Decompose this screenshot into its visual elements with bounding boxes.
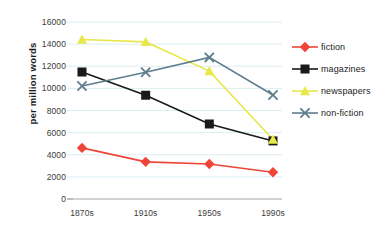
series-lines xyxy=(82,39,273,172)
legend-marker-diamond-icon xyxy=(292,40,318,54)
data-point-legend-fiction xyxy=(300,42,310,52)
series-line-fiction xyxy=(82,148,273,172)
x-tick-label-1870s: 1870s xyxy=(52,208,112,218)
y-tick-label: 12000 xyxy=(18,61,66,71)
legend-item-newspapers[interactable]: newspapers xyxy=(292,80,372,102)
legend-label-fiction: fiction xyxy=(321,42,345,52)
data-point-magazines-1950s xyxy=(205,119,214,128)
y-tick-label: 16000 xyxy=(18,17,66,27)
legend-marker-triangle-icon xyxy=(292,84,318,98)
y-tick-label: 14000 xyxy=(18,39,66,49)
data-point-magazines-1870s xyxy=(78,68,87,77)
legend-label-non-fiction: non-fiction xyxy=(321,108,364,118)
legend-label-magazines: magazines xyxy=(321,64,365,74)
y-tick-label: 0 xyxy=(18,194,66,204)
data-point-legend-magazines xyxy=(301,65,310,74)
legend-item-magazines[interactable]: magazines xyxy=(292,58,372,80)
legend-label-newspapers: newspapers xyxy=(321,86,371,96)
series-line-magazines xyxy=(82,72,273,141)
legend-marker-x-icon xyxy=(292,106,318,120)
y-axis-title: per million words xyxy=(27,24,38,144)
y-tick-label: 4000 xyxy=(18,150,66,160)
chart-legend: fictionmagazinesnewspapersnon-fiction xyxy=(292,36,372,124)
x-tick-label-1910s: 1910s xyxy=(116,208,176,218)
data-point-fiction-1990s xyxy=(268,167,278,177)
data-point-fiction-1870s xyxy=(77,143,87,153)
legend-item-fiction[interactable]: fiction xyxy=(292,36,372,58)
x-tick-label-1990s: 1990s xyxy=(243,208,303,218)
data-point-magazines-1910s xyxy=(141,91,150,100)
y-tick-label: 8000 xyxy=(18,106,66,116)
y-tick-label: 2000 xyxy=(18,172,66,182)
data-point-fiction-1910s xyxy=(140,157,150,167)
legend-item-non-fiction[interactable]: non-fiction xyxy=(292,102,372,124)
data-point-fiction-1950s xyxy=(204,159,214,169)
y-tick-label: 10000 xyxy=(18,83,66,93)
data-point-newspapers-1950s xyxy=(204,66,214,75)
series-line-newspapers xyxy=(82,39,273,139)
y-tick-label: 6000 xyxy=(18,128,66,138)
series-line-non-fiction xyxy=(82,57,273,95)
chart-container: 0200040006000800010000120001400016000 18… xyxy=(0,0,372,237)
gridlines xyxy=(73,22,282,177)
x-tick-label-1950s: 1950s xyxy=(179,208,239,218)
legend-marker-square-icon xyxy=(292,62,318,76)
